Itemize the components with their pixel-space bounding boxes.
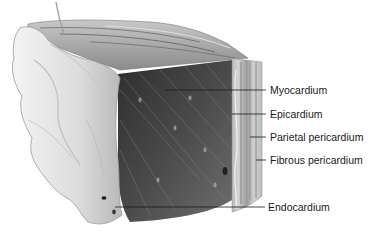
myocardium-face: [118, 60, 232, 222]
heart-wall-diagram: Myocardium Epicardium Parietal pericardi…: [0, 0, 374, 238]
vessel-cross-section: [223, 167, 228, 175]
label-endocardium: Endocardium: [268, 201, 330, 213]
label-parietal-pericardium: Parietal pericardium: [270, 131, 363, 143]
label-epicardium: Epicardium: [270, 108, 323, 120]
label-fibrous-pericardium: Fibrous pericardium: [270, 154, 363, 166]
label-myocardium: Myocardium: [270, 84, 327, 96]
